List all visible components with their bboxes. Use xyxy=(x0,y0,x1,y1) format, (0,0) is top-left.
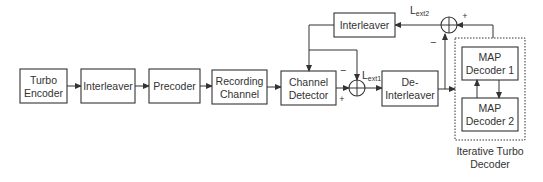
svg-text:Encoder: Encoder xyxy=(24,87,64,99)
deinterleaver-block: De- Interleaver xyxy=(382,71,438,106)
interleaver-block: Interleaver xyxy=(81,69,135,103)
recording-channel-block: Recording Channel xyxy=(212,70,267,104)
svg-text:Recording: Recording xyxy=(216,75,264,87)
summation-node-2 xyxy=(441,17,457,33)
svg-text:Interleaver: Interleaver xyxy=(340,19,390,31)
svg-text:MAP: MAP xyxy=(479,51,502,63)
group-label-line1: Iterative Turbo xyxy=(456,145,523,157)
turbo-encoder-block: Turbo Encoder xyxy=(20,69,67,103)
channel-detector-block: Channel Detector xyxy=(281,71,336,105)
svg-text:Interleaver: Interleaver xyxy=(385,89,435,101)
map-decoder-2-block: MAP Decoder 2 xyxy=(462,98,518,131)
arrow xyxy=(309,25,334,71)
svg-text:Decoder 2: Decoder 2 xyxy=(466,115,515,127)
block-diagram: Turbo Encoder Interleaver Precoder Recor… xyxy=(0,0,543,182)
sum2-plus-sign: + xyxy=(462,11,467,21)
sum1-plus-sign: + xyxy=(339,94,344,104)
svg-text:Decoder 1: Decoder 1 xyxy=(466,64,515,76)
svg-text:Precoder: Precoder xyxy=(153,80,196,92)
lext2-label: Lext2 xyxy=(410,4,429,17)
svg-text:De-: De- xyxy=(402,76,419,88)
svg-text:Channel: Channel xyxy=(220,88,259,100)
svg-text:MAP: MAP xyxy=(479,102,502,114)
svg-text:Interleaver: Interleaver xyxy=(83,80,133,92)
summation-node-1 xyxy=(349,80,365,96)
svg-text:Detector: Detector xyxy=(289,89,329,101)
feedback-interleaver-block: Interleaver xyxy=(334,13,395,37)
precoder-block: Precoder xyxy=(149,69,200,103)
svg-text:Channel: Channel xyxy=(289,76,328,88)
svg-text:Turbo: Turbo xyxy=(30,74,57,86)
sum1-minus-sign: − xyxy=(340,64,346,76)
lext1-label: Lext1 xyxy=(362,69,381,82)
sum2-minus-sign: − xyxy=(430,36,436,48)
group-label-line2: Decoder xyxy=(470,158,510,170)
map-decoder-1-block: MAP Decoder 1 xyxy=(462,47,518,80)
arrow xyxy=(457,25,493,38)
